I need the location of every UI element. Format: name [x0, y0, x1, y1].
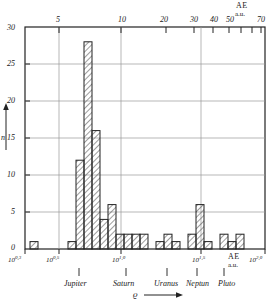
histogram-bar: [100, 219, 108, 249]
histogram-bar: [164, 234, 172, 249]
histogram-bar: [204, 242, 212, 249]
horizontal-gridlines: [25, 64, 265, 212]
histogram-bar: [76, 160, 84, 249]
histogram-bar: [228, 242, 236, 249]
histogram-figure: 5 10 20 30 40 50 70 AE a.u. 0 5 10 15 20…: [0, 0, 273, 306]
y-axis-arrow-icon: [3, 103, 9, 150]
histogram-bar: [156, 242, 164, 249]
histogram-bar: [132, 234, 140, 249]
x-axis-arrow-icon: [144, 292, 183, 298]
plot-canvas: [0, 0, 273, 306]
histogram-bar: [108, 205, 116, 249]
histogram-bar: [140, 234, 148, 249]
histogram-bar: [188, 234, 196, 249]
histogram-bar: [220, 234, 228, 249]
planet-marker-ticks: [79, 268, 224, 276]
histogram-bar: [92, 131, 100, 249]
top-axis-ticks: [59, 27, 261, 33]
histogram-bar: [124, 234, 132, 249]
y-axis-ticks: [25, 64, 30, 212]
histogram-bar: [30, 242, 38, 249]
histogram-bar: [84, 42, 92, 249]
bottom-axis-ticks: [25, 249, 265, 254]
histogram-bar: [116, 234, 124, 249]
histogram-bars: [30, 42, 244, 249]
histogram-bar: [196, 205, 204, 249]
histogram-bar: [68, 242, 76, 249]
histogram-bar: [236, 234, 244, 249]
histogram-bar: [172, 242, 180, 249]
